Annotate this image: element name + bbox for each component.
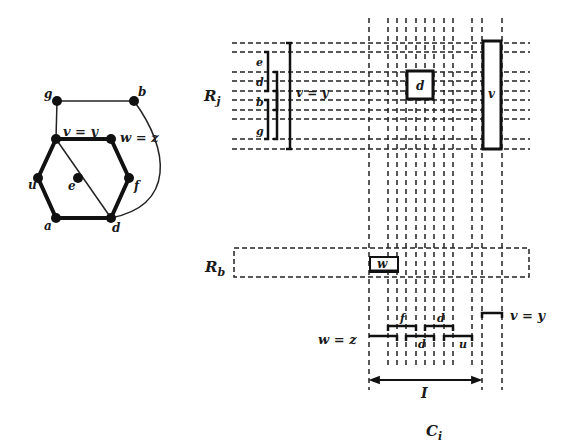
label-v: v = y <box>63 124 99 139</box>
bracket-label-g: g <box>256 125 264 138</box>
interval-right-label: v = y <box>510 308 546 323</box>
row-brackets <box>264 43 292 149</box>
label-e: e <box>68 179 76 193</box>
node-a <box>51 213 61 223</box>
interval-label-d1: d <box>418 338 426 351</box>
big-bracket-label: v = y <box>296 86 329 100</box>
interval-label-u: u <box>459 338 467 351</box>
label-f: f <box>133 179 141 193</box>
bracket-label-e: e <box>256 56 263 69</box>
interval-arrow <box>371 377 480 383</box>
column-label-ci: Ci <box>426 422 442 443</box>
diagram-canvas: g b v = y w = z u e f a d <box>0 0 577 447</box>
row-label-rb: Rb <box>204 258 225 279</box>
box-d-label: d <box>416 79 425 93</box>
node-v <box>51 134 61 144</box>
edge-g-v <box>56 101 57 139</box>
node-f <box>124 173 134 183</box>
label-w: w = z <box>120 130 159 145</box>
node-w <box>106 134 116 144</box>
label-a: a <box>44 219 52 233</box>
graph: g b v = y w = z u e f a d <box>28 85 160 235</box>
label-g: g <box>44 87 52 101</box>
interval-label-d2: d <box>437 312 445 325</box>
label-d: d <box>112 221 121 235</box>
interval-left-label: w = z <box>318 332 357 347</box>
bracket-label-d: d <box>256 76 264 89</box>
edge-v-d <box>56 139 111 218</box>
label-u: u <box>28 178 37 192</box>
row-label-rj: Rj <box>203 87 220 108</box>
interval-label-i: I <box>420 385 428 401</box>
bracket-label-b: b <box>256 96 264 109</box>
box-w-label: w <box>377 257 388 271</box>
box-v-label: v <box>488 87 496 101</box>
label-b: b <box>138 85 146 99</box>
node-g <box>52 96 62 106</box>
